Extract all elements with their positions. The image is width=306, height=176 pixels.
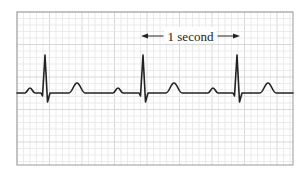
scale-label: 1 second — [168, 29, 214, 44]
figure-background — [0, 0, 306, 176]
ecg-figure: 1 second — [0, 0, 306, 176]
